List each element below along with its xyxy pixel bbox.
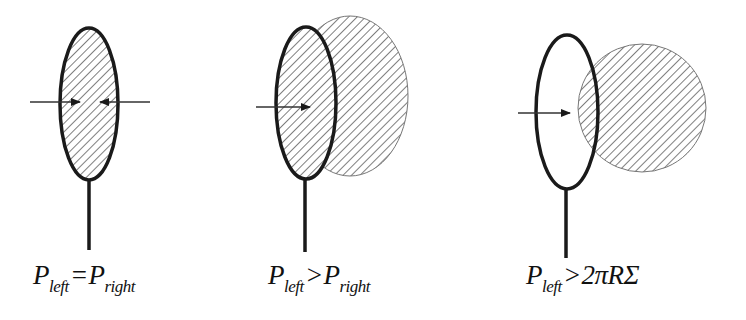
label-symbol: P xyxy=(88,260,104,290)
label-operator: > xyxy=(565,260,580,290)
label-symbol: 2πRΣ xyxy=(581,260,639,290)
label-subscript: left xyxy=(49,277,69,296)
membrane-ellipse xyxy=(276,27,336,179)
label-subscript: right xyxy=(104,277,135,296)
label-bulging-membrane: Pleft>Pright xyxy=(268,260,371,297)
panel-bubble-detach xyxy=(518,35,706,258)
label-subscript: left xyxy=(542,277,562,296)
label-subscript: left xyxy=(284,277,304,296)
label-equal-pressure: Pleft=Pright xyxy=(33,260,136,297)
label-operator: > xyxy=(307,260,322,290)
membrane-ellipse xyxy=(60,28,118,180)
panel-equal-pressure xyxy=(30,28,150,250)
label-symbol: P xyxy=(33,260,49,290)
label-operator: = xyxy=(72,260,87,290)
panel-bulging-membrane xyxy=(256,16,408,252)
label-symbol: P xyxy=(268,260,284,290)
label-symbol: P xyxy=(526,260,542,290)
label-subscript: right xyxy=(339,277,370,296)
label-bubble-detach: Pleft>2πRΣ xyxy=(526,260,639,297)
label-symbol: P xyxy=(323,260,339,290)
